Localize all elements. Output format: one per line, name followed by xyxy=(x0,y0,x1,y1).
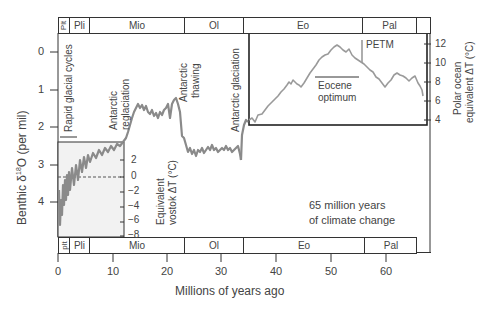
polar-tick-6: 6 xyxy=(435,95,441,106)
x-tick-50: 50 xyxy=(316,265,346,277)
top-epoch-pli: Pli xyxy=(70,18,90,33)
annotation-antarctic-reglaciation-1: Antarctic xyxy=(108,91,119,130)
annotation-antarctic-glaciation: Antarctic glaciation xyxy=(230,48,241,132)
top-epoch-eo: Eo xyxy=(244,18,363,33)
x-tick-60: 60 xyxy=(371,265,401,277)
annotation-eocene-optimum: Eocene optimum xyxy=(318,80,356,104)
y-tick-1: 1 xyxy=(24,83,44,95)
polar-tick-4: 4 xyxy=(435,114,441,125)
y-tick-0: 0 xyxy=(24,45,44,57)
bottom-frame-line xyxy=(417,252,431,253)
x-axis-title: Millions of years ago xyxy=(175,284,284,298)
bottom-epoch-eo: Eo xyxy=(244,238,365,253)
bottom-epoch-pli: Pli xyxy=(70,238,90,253)
chart-caption: 65 million years of climate change xyxy=(309,198,395,228)
top-epoch-bar: Plt Pli Mio Ol Eo Pal xyxy=(58,17,431,34)
y-axis-title: Benthic δ18O (per mil) xyxy=(15,110,29,225)
x-tick-0: 0 xyxy=(43,265,73,277)
vostok-tick-m8: −8 xyxy=(128,229,139,240)
y-axis-ticks xyxy=(50,52,58,202)
vostok-tick-m2: −2 xyxy=(128,185,139,196)
vostok-tick-m6: −6 xyxy=(128,214,139,225)
x-tick-10: 10 xyxy=(98,265,128,277)
vostok-tick-2: 2 xyxy=(131,154,137,165)
polar-tick-8: 8 xyxy=(435,76,441,87)
bottom-epoch-ol: Ol xyxy=(185,238,244,253)
top-epoch-ol: Ol xyxy=(185,18,244,33)
top-epoch-plt: Plt xyxy=(59,18,70,33)
annotation-antarctic-thawing-1: Antarctic xyxy=(178,63,189,102)
vostok-tick-m4: −4 xyxy=(128,200,139,211)
vostok-tick-0: 0 xyxy=(131,170,137,181)
x-axis-ticks xyxy=(58,253,386,262)
bottom-epoch-plt: plt xyxy=(59,238,70,253)
bottom-epoch-pal: Pal xyxy=(365,238,417,253)
polar-inset-box xyxy=(249,33,427,125)
annotation-antarctic-thawing-2: thawing xyxy=(190,64,201,98)
x-tick-20: 20 xyxy=(152,265,182,277)
vostok-axis-title-2: vostok ΔT (°C) xyxy=(167,160,178,225)
annotation-rapid-glacial-cycles: Rapid glacial cycles xyxy=(63,44,74,132)
annotation-antarctic-reglaciation-2: reglaciation xyxy=(120,79,131,130)
top-epoch-mio: Mio xyxy=(90,18,185,33)
polar-tick-12: 12 xyxy=(435,38,446,49)
polar-tick-10: 10 xyxy=(435,57,446,68)
bottom-epoch-bar: plt Pli Mio Ol Eo Pal xyxy=(58,237,417,254)
annotation-petm: PETM xyxy=(366,39,394,50)
x-tick-30: 30 xyxy=(206,265,236,277)
polar-axis-title-1: Polar ocean xyxy=(452,62,463,115)
polar-axis-title-2: equivalent ΔT (°C) xyxy=(464,41,475,123)
bottom-epoch-mio: Mio xyxy=(90,238,185,253)
top-epoch-pal: Pal xyxy=(363,18,417,33)
x-tick-40: 40 xyxy=(261,265,291,277)
vostok-axis-title-1: Equivalent xyxy=(155,178,166,225)
